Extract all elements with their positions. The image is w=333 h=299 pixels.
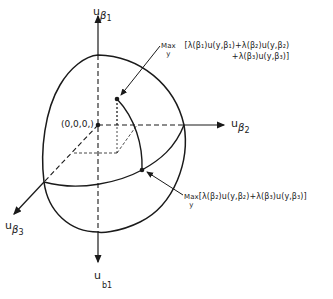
label-u-beta2-subsub: 2 bbox=[244, 126, 249, 135]
annotation-top-max: Max y bbox=[161, 42, 176, 58]
annotation-bottom-line1: [λ(β₂)u(y,β₂)+λ(β₃)u(y,β₃)] bbox=[199, 193, 307, 201]
annotation-bottom-max-text: Max bbox=[184, 193, 199, 201]
annotation-bottom-var: y bbox=[189, 201, 193, 209]
label-u-beta2-base: u bbox=[231, 117, 238, 130]
axis-u-beta3-hidden bbox=[44, 125, 98, 182]
annotation-top-expression: [λ(β₁)u(y,β₁)+λ(β₂)u(y,β₂) +λ(β₃)u(y,β₃)… bbox=[184, 42, 289, 61]
annotation-top-line2: +λ(β₃)u(y,β₃)] bbox=[184, 53, 289, 61]
origin-point bbox=[96, 123, 101, 128]
surface-inner-curve bbox=[117, 99, 142, 170]
point-two-group-max bbox=[140, 168, 145, 173]
annotation-top-var: y bbox=[166, 50, 170, 58]
surface-outline bbox=[43, 55, 186, 232]
axis-u-beta3 bbox=[14, 182, 44, 214]
annotation-two-group: Max y [λ(β₂)u(y,β₂)+λ(β₃)u(y,β₃)] bbox=[184, 193, 307, 209]
projection-diagonal bbox=[117, 125, 137, 153]
leader-bottom bbox=[147, 172, 183, 195]
label-u-beta1: uβ1 bbox=[93, 6, 111, 17]
label-u-beta3-base: u bbox=[5, 219, 12, 232]
surface-front-curve bbox=[44, 125, 184, 186]
origin-label: (0,0,0,) bbox=[61, 120, 94, 129]
annotation-three-group: Max y [λ(β₁)u(y,β₁)+λ(β₂)u(y,β₂) +λ(β₃)u… bbox=[161, 42, 289, 61]
annotation-top-line1: [λ(β₁)u(y,β₁)+λ(β₂)u(y,β₂) bbox=[184, 41, 289, 50]
label-u-b1: ub1 bbox=[94, 270, 111, 281]
leader-top bbox=[121, 46, 160, 95]
label-u-beta3-subsub: 3 bbox=[18, 228, 23, 237]
annotation-bottom-max: Max y bbox=[184, 193, 199, 209]
label-u-beta1-subsub: 1 bbox=[106, 14, 111, 23]
annotation-top-max-text: Max bbox=[161, 42, 176, 50]
point-three-group-max bbox=[115, 97, 120, 102]
label-u-b1-base: u bbox=[94, 269, 101, 282]
label-u-beta3: uβ3 bbox=[5, 220, 23, 231]
label-u-beta1-base: u bbox=[93, 5, 100, 18]
label-u-b1-sub: b1 bbox=[102, 281, 112, 290]
label-u-beta2: uβ2 bbox=[231, 118, 249, 129]
